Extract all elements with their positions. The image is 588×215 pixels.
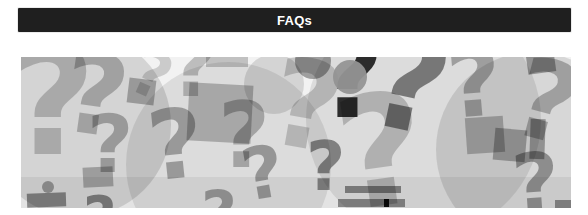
faq-collage-image: ?????????????????? — [21, 57, 571, 208]
faq-header-title: FAQs — [277, 14, 312, 27]
question-mark-glyph: ? — [509, 141, 562, 208]
square-shape — [555, 200, 571, 208]
bar-shape — [338, 199, 405, 207]
square-shape — [206, 57, 248, 67]
question-mark-glyph: ? — [83, 189, 117, 208]
question-mark-glyph: ? — [201, 183, 237, 208]
bar-shape — [384, 199, 389, 207]
faq-section: FAQs ?????????????????? — [0, 0, 588, 215]
dot-shape — [42, 181, 54, 193]
faq-header-bar: FAQs — [18, 8, 571, 32]
square-shape — [27, 192, 66, 207]
bar-shape — [345, 186, 401, 193]
